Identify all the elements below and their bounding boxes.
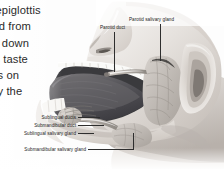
body-text-line: ells on xyxy=(0,67,64,83)
leader-parotid-duct xyxy=(114,32,115,72)
label-sublingual-salivary-gland: Sublingual salivary gland xyxy=(0,131,76,137)
figure-page: e epiglottis ood from od down sic taste … xyxy=(0,0,224,169)
body-text-column: e epiglottis ood from od down sic taste … xyxy=(0,2,64,116)
body-text-line: ood from xyxy=(0,18,64,34)
leader-sublingual-salivary-gland xyxy=(78,133,94,134)
leader-sublingual-ducts xyxy=(78,117,100,118)
leader-submandibular-salivary-gland xyxy=(88,149,134,150)
label-submandibular-duct: Submandibular duct xyxy=(0,123,76,129)
leader-parotid-salivary-gland xyxy=(160,24,161,61)
leader-submandibular-duct xyxy=(78,125,104,126)
body-text-line: e epiglottis xyxy=(0,2,64,18)
label-parotid-duct: Parotid duct xyxy=(100,25,125,31)
body-text-line: ally the xyxy=(0,83,64,99)
label-sublingual-ducts: Sublingual ducts xyxy=(0,115,76,121)
body-text-line: od down xyxy=(0,35,64,51)
label-submandibular-salivary-gland: Submandibular salivary gland xyxy=(0,147,86,153)
body-text-line: sic taste xyxy=(0,51,64,67)
label-parotid-salivary-gland: Parotid salivary gland xyxy=(129,17,174,23)
leader-submandibular-salivary-gland-vertical xyxy=(133,133,134,150)
body-text-line: ts xyxy=(0,100,64,116)
